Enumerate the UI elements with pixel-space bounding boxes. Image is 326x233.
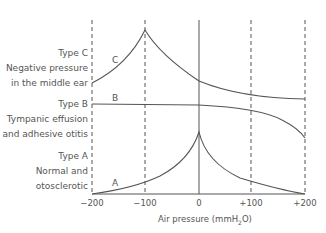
type-a-title: Type A — [36, 149, 88, 164]
type-a-desc-2: otosclerotic — [36, 179, 88, 194]
type-c-label: Type C Negative pressure in the middle e… — [6, 46, 88, 91]
type-c-desc-1: Negative pressure — [6, 61, 88, 76]
tick-plus100: +100 — [239, 198, 262, 208]
tick-plus200: +200 — [293, 198, 316, 208]
type-b-desc-2: and adhesive otitis — [3, 127, 88, 142]
tick-minus100: −100 — [133, 198, 156, 208]
tick-minus200: −200 — [80, 198, 103, 208]
curve-b-letter: B — [112, 93, 118, 103]
x-axis-label: Air pressure (mmH2O) — [158, 214, 252, 226]
type-a-label: Type A Normal and otosclerotic — [36, 149, 88, 194]
type-a-desc-1: Normal and — [36, 164, 88, 179]
curve-a-letter: A — [112, 178, 118, 188]
tick-zero: 0 — [196, 198, 201, 208]
curve-c-letter: C — [112, 55, 118, 65]
type-c-title: Type C — [6, 46, 88, 61]
type-b-label: Type B Tympanic effusion and adhesive ot… — [3, 97, 88, 142]
type-c-desc-2: in the middle ear — [6, 76, 88, 91]
type-b-title: Type B — [3, 97, 88, 112]
type-b-desc-1: Tympanic effusion — [3, 112, 88, 127]
